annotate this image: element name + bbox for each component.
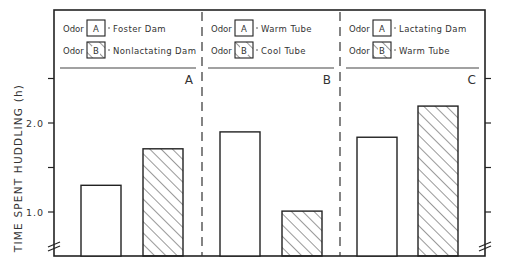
huddling-bar-chart: TIME SPENT HUDDLING (h) 1.02.0 OdorAFost… xyxy=(0,0,507,272)
legend-entry-b: OdorBWarm Tube xyxy=(349,42,450,58)
legend-description: Lactating Dam xyxy=(399,24,467,34)
legend-prefix: Odor xyxy=(211,46,232,56)
legend-key: B xyxy=(241,46,247,56)
y-axis-label: TIME SPENT HUDDLING (h) xyxy=(12,84,24,253)
legend-entry-a: OdorAFoster Dam xyxy=(63,20,166,36)
legend-key: A xyxy=(379,24,385,34)
bar-odor-b xyxy=(418,106,458,256)
panel-b: OdorAWarm TubeOdorBCool TubeB xyxy=(208,20,334,256)
legend-prefix: Odor xyxy=(349,46,370,56)
y-tick-label: 2.0 xyxy=(26,118,44,129)
panel-label: C xyxy=(468,73,476,87)
legend-entry-a: OdorAWarm Tube xyxy=(211,20,312,36)
legend-entry-b: OdorBCool Tube xyxy=(211,42,306,58)
panel-c: OdorALactating DamOdorBWarm TubeC xyxy=(346,20,479,256)
panel-label: B xyxy=(323,73,331,87)
legend-key: B xyxy=(379,46,385,56)
bar-odor-a xyxy=(220,132,260,256)
legend-key: A xyxy=(93,24,99,34)
panel-a: OdorAFoster DamOdorBNonlactating DamA xyxy=(60,20,196,256)
legend-description: Nonlactating Dam xyxy=(113,46,196,56)
legend-prefix: Odor xyxy=(211,24,232,34)
bar-odor-b xyxy=(282,211,322,256)
legend-key: B xyxy=(93,46,99,56)
bar-odor-a xyxy=(357,137,397,256)
legend-description: Cool Tube xyxy=(261,46,306,56)
legend-prefix: Odor xyxy=(349,24,370,34)
panel-label: A xyxy=(185,73,194,87)
y-tick-label: 1.0 xyxy=(26,207,44,218)
bar-odor-b xyxy=(143,149,183,256)
legend-description: Warm Tube xyxy=(261,24,312,34)
legend-entry-a: OdorALactating Dam xyxy=(349,20,467,36)
legend-description: Foster Dam xyxy=(113,24,166,34)
legend-description: Warm Tube xyxy=(399,46,450,56)
legend-prefix: Odor xyxy=(63,24,84,34)
legend-prefix: Odor xyxy=(63,46,84,56)
legend-key: A xyxy=(241,24,247,34)
legend-entry-b: OdorBNonlactating Dam xyxy=(63,42,196,58)
bar-odor-a xyxy=(81,185,121,256)
